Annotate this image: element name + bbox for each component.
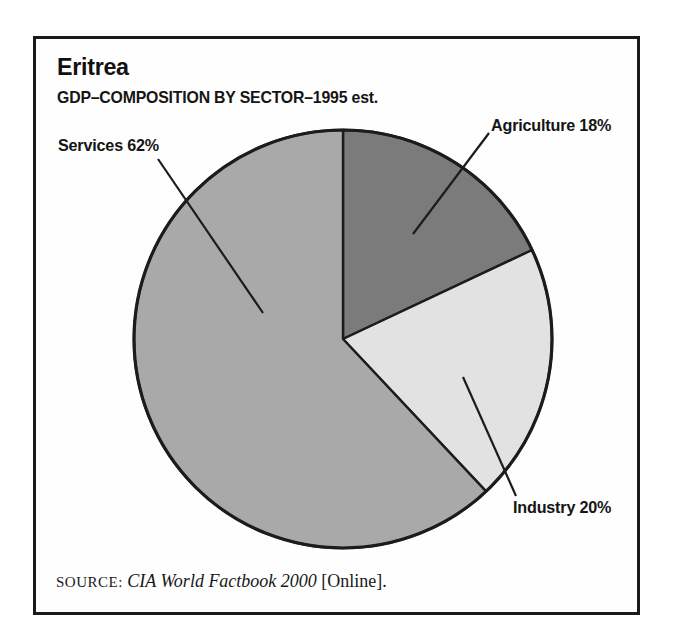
source-suffix: [Online]. bbox=[321, 571, 386, 591]
source-title: CIA World Factbook 2000 bbox=[127, 571, 317, 591]
pie-label-services: Services 62% bbox=[58, 136, 159, 156]
pie-label-agriculture: Agriculture 18% bbox=[491, 116, 611, 136]
figure-subtitle: GDP–COMPOSITION BY SECTOR–1995 est. bbox=[57, 88, 378, 107]
figure-title: Eritrea bbox=[57, 53, 129, 81]
source-line: SOURCE: CIA World Factbook 2000 [Online]… bbox=[56, 571, 387, 592]
source-prefix: SOURCE: bbox=[56, 574, 123, 590]
pie-label-industry: Industry 20% bbox=[513, 498, 611, 518]
figure-page: Eritrea GDP–COMPOSITION BY SECTOR–1995 e… bbox=[0, 0, 676, 644]
